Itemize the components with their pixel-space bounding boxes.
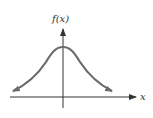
x-axis-label: x: [140, 91, 146, 102]
y-axis-label: f(x): [51, 13, 69, 24]
bell-curve-diagram: f(x) x: [0, 0, 153, 118]
